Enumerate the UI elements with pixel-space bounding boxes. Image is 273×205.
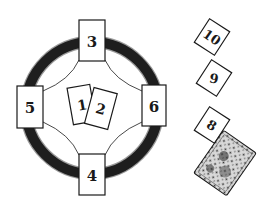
card-label: 5 — [25, 99, 35, 117]
card-10[interactable]: 10 — [194, 19, 229, 56]
card-4[interactable]: 4 — [79, 154, 105, 195]
tarot-spread-diagram: 3 4 5 6 1 2 10 9 8 — [0, 0, 273, 205]
card-3[interactable]: 3 — [79, 20, 105, 61]
card-label: 6 — [149, 98, 159, 116]
card-5[interactable]: 5 — [17, 86, 43, 128]
card-9[interactable]: 9 — [196, 60, 231, 97]
card-6[interactable]: 6 — [142, 85, 166, 126]
card-label: 3 — [87, 33, 97, 51]
card-label: 4 — [87, 167, 97, 185]
deck-card-back[interactable] — [194, 130, 257, 196]
